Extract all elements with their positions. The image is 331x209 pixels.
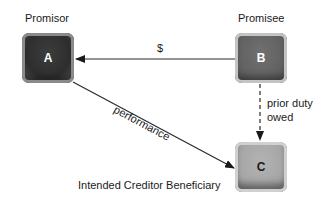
intended-creditor-beneficiary-label: Intended Creditor Beneficiary (78, 180, 220, 191)
node-a: A (22, 33, 74, 83)
prior-duty-label: prior duty (267, 98, 313, 109)
node-b: B (235, 33, 287, 83)
dollar-label: $ (157, 43, 163, 54)
owed-label: owed (267, 112, 293, 123)
promisor-label: Promisor (25, 13, 69, 24)
node-b-letter: B (257, 51, 266, 65)
node-c-letter: C (257, 160, 266, 174)
node-c: C (235, 142, 287, 192)
promisee-label: Promisee (238, 13, 284, 24)
node-a-letter: A (44, 51, 53, 65)
